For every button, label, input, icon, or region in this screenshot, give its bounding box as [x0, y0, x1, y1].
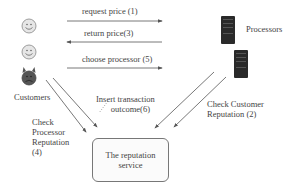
check-processor-reputation-label: Check Processor Reputation (4) [32, 117, 69, 157]
return-price-label: return price(3) [84, 28, 133, 38]
smiley-face-icon [22, 45, 36, 59]
server-tower-icon [234, 50, 248, 78]
choose-processor-label: choose processor (5) [82, 54, 152, 64]
check-customer-reputation-label: Check Customer Reputation (2) [207, 99, 264, 119]
customers-label: Customers [14, 92, 50, 102]
check-customer-reputation-arrow-1 [155, 72, 214, 128]
devil-face-icon [22, 67, 36, 85]
processors-label: Processors [246, 24, 282, 34]
reputation-service-box: The reputation service [92, 138, 169, 182]
server-tower-icon [221, 16, 235, 44]
insert-transaction-label: Insert transaction outcome(6) [96, 94, 155, 114]
request-price-label: request price (1) [82, 6, 138, 16]
smiley-face-icon [22, 19, 36, 33]
